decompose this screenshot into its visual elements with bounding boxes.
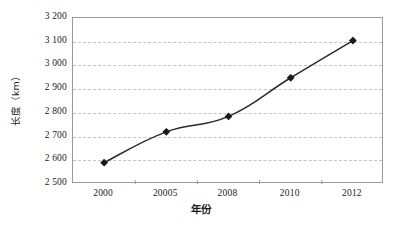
x-axis-tick-label: 2012 [342, 188, 362, 198]
x-axis-title: 年份 [0, 203, 401, 215]
y-axis-tick-label: 3 100 [45, 36, 67, 46]
y-axis-title: 长度（km） [10, 56, 21, 142]
series-line [104, 41, 353, 163]
data-point-marker [225, 113, 231, 119]
data-point-marker [101, 160, 107, 166]
x-axis-tick-label: 2008 [218, 188, 238, 198]
line-chart: 3 2003 1003 0002 9002 8002 7002 6002 500… [0, 0, 401, 229]
x-axis-tick-label: 20005 [153, 188, 178, 198]
y-axis-tick-label: 2 700 [45, 131, 67, 141]
x-axis-tick-labels: 200020005200820102012 [0, 188, 401, 202]
x-axis-tick-label: 2010 [280, 188, 300, 198]
y-axis-tick-label: 3 200 [45, 12, 67, 22]
plot-area [72, 17, 383, 183]
data-point-marker [163, 129, 169, 135]
y-axis-tick-label: 2 900 [45, 83, 67, 93]
y-axis-tick-label: 2 600 [45, 155, 67, 165]
data-series-line [73, 18, 384, 184]
x-axis-tick-label: 2000 [93, 188, 113, 198]
y-axis-tick-label: 2 500 [45, 178, 67, 188]
y-axis-tick-label: 3 000 [45, 60, 67, 70]
y-axis-tick-label: 2 800 [45, 107, 67, 117]
